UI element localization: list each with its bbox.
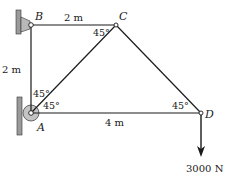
label-c: C: [119, 10, 128, 23]
label-b: B: [34, 10, 43, 23]
wall-a: [17, 97, 22, 135]
angle-a-lower: 45°: [43, 100, 60, 111]
dim-bc: 2 m: [64, 12, 84, 23]
dim-ab: 2 m: [2, 64, 22, 75]
label-d: D: [204, 108, 214, 121]
joint-c: [114, 23, 118, 27]
dim-ad: 4 m: [105, 117, 125, 128]
joint-d: [199, 111, 203, 115]
truss-diagram: B C D A 2 m 2 m 4 m 45° 45° 45° 45° 3000…: [0, 0, 229, 181]
joint-b: [29, 23, 34, 28]
wall-b: [16, 10, 21, 34]
joint-a: [29, 111, 34, 116]
angle-a-upper: 45°: [33, 88, 50, 99]
angle-c: 45°: [93, 27, 110, 38]
label-a: A: [36, 121, 45, 134]
load-label: 3000 N: [186, 163, 224, 174]
angle-d: 45°: [172, 100, 189, 111]
